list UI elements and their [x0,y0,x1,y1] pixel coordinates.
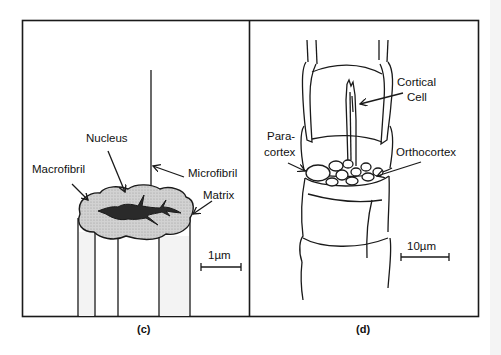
label-cortical-cell-line2: Cell [407,91,427,104]
label-paracortex-line1: Para- [267,130,295,143]
caption-c: (c) [137,323,150,335]
label-matrix: Matrix [203,189,234,202]
figure-diagram [0,0,501,355]
caption-d: (d) [356,323,370,335]
label-paracortex-line2: cortex [264,146,295,159]
label-orthocortex: Orthocortex [396,146,456,159]
label-cortical-cell-line1: Cortical [397,76,436,89]
scale-bar-label-c: 1µm [208,249,231,262]
label-nucleus: Nucleus [86,132,128,145]
label-microfibril: Microfibril [188,167,237,180]
scale-bar-label-d: 10µm [407,240,436,253]
label-macrofibril: Macrofibril [32,163,85,176]
